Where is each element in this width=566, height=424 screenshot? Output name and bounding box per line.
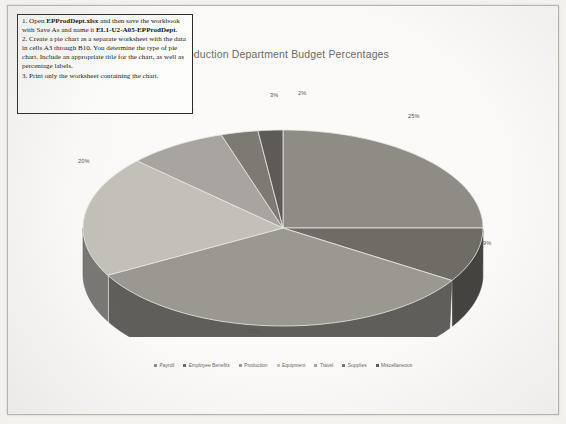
legend-item: Supplies [342, 363, 366, 368]
legend-item: Production [239, 363, 268, 368]
scanned-page-sheet: Production Department Budget Percentages… [7, 5, 559, 415]
instruction-step: 3. Print only the worksheet containing t… [22, 72, 189, 81]
instruction-emphasis: EPProdDept.xlsx [46, 17, 98, 25]
legend-swatch-icon [239, 364, 242, 367]
slice-label-miscellaneous: 2% [298, 90, 306, 96]
instruction-step: 2. Create a pie chart as a separate work… [22, 35, 189, 71]
legend-label: Supplies [348, 363, 367, 368]
legend-swatch-icon [154, 364, 157, 367]
instruction-text: Create a pie chart as a separate workshe… [22, 35, 186, 70]
legend-swatch-icon [314, 364, 317, 367]
instruction-box: 1. Open EPProdDept.xlsx and then save th… [17, 14, 193, 114]
legend-swatch-icon [376, 364, 379, 367]
legend-swatch-icon [342, 364, 345, 367]
legend-label: Production [244, 363, 267, 368]
legend-item: Travel [314, 363, 333, 368]
legend-item: Equipment [277, 363, 306, 368]
instruction-step: 1. Open EPProdDept.xlsx and then save th… [22, 17, 189, 35]
legend-item: Miscellaneous [376, 363, 413, 368]
pie-slice-payroll [283, 130, 483, 228]
slice-label-equipment: 20% [78, 158, 90, 164]
slice-label-employee-benefits: 9% [483, 240, 491, 246]
legend-label: Payroll [159, 363, 174, 368]
chart-legend: PayrollEmployee BenefitsProductionEquipm… [8, 363, 558, 368]
legend-item: Employee Benefits [183, 363, 229, 368]
screenshot-page: Production Department Budget Percentages… [0, 0, 566, 424]
legend-label: Employee Benefits [189, 363, 230, 368]
slice-label-payroll: 25% [408, 113, 420, 119]
legend-label: Miscellaneous [381, 363, 412, 368]
legend-label: Equipment [282, 363, 305, 368]
instruction-text: . [176, 26, 178, 34]
legend-item: Payroll [154, 363, 174, 368]
legend-label: Travel [320, 363, 333, 368]
instruction-text: Print only the worksheet containing the … [29, 72, 158, 80]
instruction-emphasis: EL1-U2-A05-EPProdDept [96, 26, 175, 34]
slice-label-supplies: 3% [270, 92, 278, 98]
legend-swatch-icon [277, 364, 280, 367]
slice-label-production: 33% [248, 328, 260, 334]
instruction-text: Open [29, 17, 46, 25]
legend-swatch-icon [183, 364, 186, 367]
pie-top-slices [83, 130, 483, 326]
